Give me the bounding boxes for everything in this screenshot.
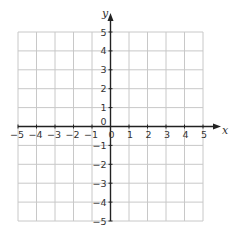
y-tick-label: −3: [92, 178, 106, 189]
x-tick-label: −2: [65, 129, 79, 140]
x-tick-label: 2: [145, 129, 151, 140]
y-tick-label: 4: [100, 45, 106, 56]
y-tick-label: 3: [100, 64, 106, 75]
x-tick-label: 0: [108, 129, 114, 140]
y-tick-label: 5: [100, 27, 106, 38]
x-tick-label: 5: [201, 129, 207, 140]
x-tick-label: 3: [164, 129, 170, 140]
y-tick-label: 0: [100, 116, 106, 127]
y-tick-label: −4: [92, 197, 106, 208]
x-axis-arrow-icon: [213, 124, 221, 130]
x-tick-label: −3: [47, 129, 61, 140]
y-tick-label: −2: [92, 159, 106, 170]
coordinate-plane: −5−4−3−2−1012345 −5−4−3−2−1012345 x y: [0, 0, 237, 234]
y-tick-label: 1: [100, 102, 106, 113]
y-tick-label: −5: [92, 216, 106, 227]
axes: [18, 13, 221, 221]
x-axis-label: x: [222, 124, 229, 137]
x-tick-label: 4: [182, 129, 188, 140]
x-tick-label: −1: [84, 129, 98, 140]
x-tick-label: −4: [28, 129, 42, 140]
y-axis-arrow-icon: [108, 13, 114, 21]
y-axis-label: y: [101, 7, 109, 20]
x-tick-labels: −5−4−3−2−1012345: [10, 129, 207, 140]
y-tick-label: −1: [92, 140, 106, 151]
x-tick-label: 1: [127, 129, 133, 140]
y-tick-label: 2: [100, 83, 106, 94]
x-tick-label: −5: [10, 129, 24, 140]
